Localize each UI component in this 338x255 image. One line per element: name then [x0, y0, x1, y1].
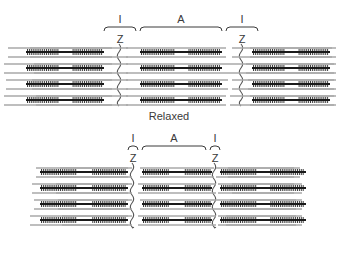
- myosin-filament: [142, 185, 212, 191]
- band-label-I: I: [118, 13, 121, 25]
- myosin-filament: [140, 97, 222, 103]
- band-label-A: A: [177, 13, 185, 25]
- myosin-filament: [220, 169, 306, 175]
- band-bracket: [226, 27, 258, 31]
- myosin-filament: [220, 201, 306, 207]
- myosin-filament: [140, 49, 222, 55]
- myosin-filament: [40, 201, 128, 207]
- myosin-filament: [220, 185, 306, 191]
- relaxed-caption: Relaxed: [0, 110, 338, 122]
- z-label: Z: [239, 33, 246, 45]
- band-bracket: [140, 27, 222, 31]
- myosin-filament: [26, 97, 104, 103]
- contracted-panel: IAIZZ Contracted: [0, 128, 338, 255]
- band-label-A: A: [170, 132, 178, 144]
- myosin-filament: [252, 97, 330, 103]
- relaxed-panel: IAIZZ Relaxed: [0, 0, 338, 128]
- z-label: Z: [212, 152, 219, 164]
- myosin-filament: [252, 81, 330, 87]
- band-bracket: [104, 27, 136, 31]
- myosin-filament: [40, 217, 128, 223]
- myosin-filament: [220, 217, 306, 223]
- myosin-filament: [26, 49, 104, 55]
- myosin-filament: [140, 81, 222, 87]
- myosin-filament: [40, 185, 128, 191]
- myosin-filament: [252, 65, 330, 71]
- z-label: Z: [130, 152, 137, 164]
- band-bracket: [210, 146, 220, 150]
- myosin-filament: [142, 201, 212, 207]
- myosin-filament: [142, 169, 212, 175]
- myosin-filament: [40, 169, 128, 175]
- band-bracket: [128, 146, 138, 150]
- myosin-filament: [140, 65, 222, 71]
- z-label: Z: [117, 33, 124, 45]
- z-line: [130, 163, 133, 228]
- band-label-I: I: [213, 132, 216, 144]
- myosin-filament: [26, 81, 104, 87]
- myosin-filament: [142, 217, 212, 223]
- myosin-filament: [26, 65, 104, 71]
- z-line: [212, 163, 215, 228]
- band-label-I: I: [131, 132, 134, 144]
- band-bracket: [142, 146, 206, 150]
- relaxed-diagram-canvas: IAIZZ: [0, 0, 338, 128]
- band-label-I: I: [240, 13, 243, 25]
- contracted-diagram-canvas: IAIZZ: [0, 128, 338, 255]
- myosin-filament: [252, 49, 330, 55]
